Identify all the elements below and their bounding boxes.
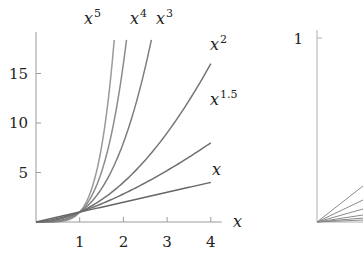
y-tick-label: 15 (9, 65, 28, 83)
curve-line-1 (317, 186, 363, 222)
y-tick-label: 5 (18, 164, 28, 182)
curve-label: x (212, 160, 221, 179)
power-functions-chart: 51015 1234 x5x4x3x2x1.5x x 1 (0, 0, 363, 261)
right-panel: 1 (293, 30, 363, 222)
curves (317, 186, 363, 222)
curve-label: x2 (210, 33, 227, 54)
curve-label: x4 (130, 7, 147, 28)
curve-x-pow-5 (36, 40, 114, 222)
x-axis-label: x (233, 212, 242, 231)
curve-label: x5 (84, 7, 101, 28)
x-tick-label: 4 (206, 233, 216, 251)
x-tick-label: 3 (162, 233, 172, 251)
curve-label: x1.5 (210, 88, 238, 109)
x-tick-label: 2 (119, 233, 129, 251)
curve-x (36, 182, 211, 222)
y-tick-label: 10 (9, 114, 28, 132)
curves (36, 40, 211, 222)
left-panel: 51015 1234 x5x4x3x2x1.5x x (9, 7, 242, 251)
curve-x-pow-4 (36, 40, 127, 222)
y-tick-label: 1 (293, 30, 303, 48)
curve-x-pow-3 (36, 40, 151, 222)
curve-label: x3 (156, 7, 173, 28)
x-tick-label: 1 (75, 233, 85, 251)
